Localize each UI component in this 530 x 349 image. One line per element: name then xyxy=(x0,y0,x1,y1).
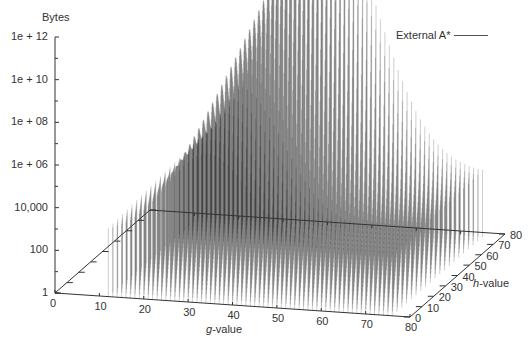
h-axis-title: h-value xyxy=(473,278,509,289)
g-tick-label: 40 xyxy=(228,310,240,321)
h-tick-label: 60 xyxy=(486,251,498,262)
legend-label: External A* xyxy=(396,29,450,41)
z-tick-label: 1e + 06 xyxy=(2,159,48,170)
h-tick-label: 30 xyxy=(451,282,463,293)
g-tick-label: 20 xyxy=(139,304,151,315)
z-tick-label: 10,000 xyxy=(2,202,48,213)
z-tick-label: 1e + 10 xyxy=(2,74,48,85)
z-tick-label: 1 xyxy=(2,287,48,298)
h-tick-label: 70 xyxy=(498,240,510,251)
h-tick-label: 50 xyxy=(474,261,486,272)
legend: External A* xyxy=(396,29,488,41)
g-tick-label: 70 xyxy=(361,319,373,330)
g-axis-title-text: -value xyxy=(212,323,242,335)
legend-line-swatch xyxy=(454,35,488,36)
g-axis-title: g-value xyxy=(206,324,242,335)
h-tick-label: 80 xyxy=(510,230,522,241)
h-tick-label: 0 xyxy=(415,313,421,324)
z-tick-label: 1e + 12 xyxy=(2,31,48,42)
g-tick-label: 0 xyxy=(50,298,56,309)
g-tick-label: 30 xyxy=(183,307,195,318)
h-tick-label: 10 xyxy=(427,303,439,314)
g-tick-label: 50 xyxy=(272,313,284,324)
h-axis-title-text: -value xyxy=(479,277,509,289)
z-tick-label: 100 xyxy=(2,244,48,255)
g-tick-label: 60 xyxy=(316,316,328,327)
h-tick-label: 20 xyxy=(439,292,451,303)
g-tick-label: 10 xyxy=(94,301,106,312)
z-tick-label: 1e + 08 xyxy=(2,116,48,127)
z-axis-title: Bytes xyxy=(42,12,70,23)
impulse-lines xyxy=(108,0,482,316)
